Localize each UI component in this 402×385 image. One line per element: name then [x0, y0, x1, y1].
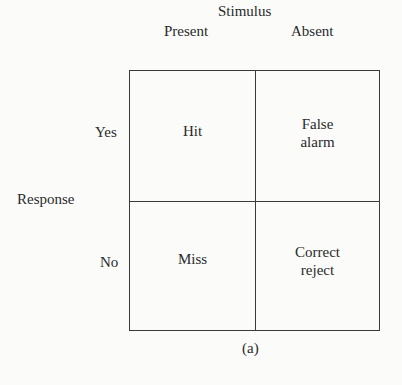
cell-hit-text: Hit: [183, 122, 202, 140]
column-header-present: Present: [164, 23, 208, 40]
response-axis-label: Response: [17, 191, 75, 208]
cell-false-alarm: False alarm: [256, 113, 379, 153]
cell-correct-reject-line1: Correct: [295, 243, 340, 261]
cell-correct-reject: Correct reject: [256, 241, 379, 281]
confusion-matrix-grid: Hit False alarm Miss Correct reject: [129, 70, 380, 331]
column-header-absent: Absent: [291, 23, 334, 40]
grid-horizontal-divider: [130, 201, 379, 202]
cell-hit: Hit: [130, 119, 255, 143]
cell-miss-text: Miss: [178, 250, 207, 268]
figure-caption: (a): [242, 340, 259, 357]
cell-correct-reject-line2: reject: [301, 261, 334, 279]
stimulus-axis-label: Stimulus: [218, 3, 271, 20]
row-header-yes: Yes: [95, 124, 117, 141]
cell-false-alarm-line2: alarm: [300, 133, 334, 151]
cell-false-alarm-line1: False: [302, 115, 334, 133]
row-header-no: No: [100, 254, 118, 271]
cell-miss: Miss: [130, 247, 255, 271]
